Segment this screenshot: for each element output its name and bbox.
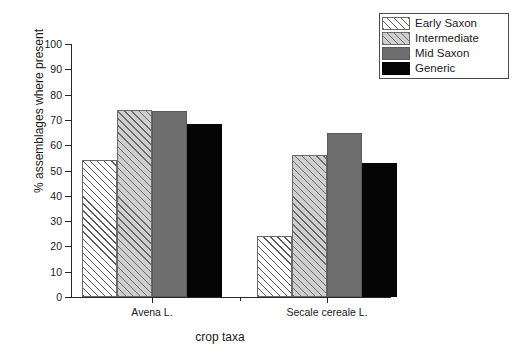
- x-axis-minor-tick: [240, 297, 241, 301]
- y-axis-tick: [65, 221, 71, 222]
- y-axis-tick-label: 20: [20, 241, 62, 251]
- legend: Early Saxon Intermediate Mid Saxon Gener…: [379, 13, 509, 79]
- bar-generic-secale-cereale-l: [362, 163, 397, 297]
- legend-swatch-icon-generic: [382, 62, 410, 75]
- y-axis-tick: [65, 246, 71, 247]
- bar-intermediate-avena-l: [117, 110, 152, 297]
- legend-swatch-icon-early-saxon: [382, 17, 410, 30]
- bar-mid-saxon-avena-l: [152, 111, 187, 297]
- y-axis-line: [71, 44, 72, 298]
- bar-mid-saxon-secale-cereale-l: [327, 133, 362, 297]
- bar-early-saxon-avena-l: [82, 160, 117, 297]
- x-axis-category-label: Secale cereale L.: [247, 306, 407, 318]
- x-axis-title: crop taxa: [0, 330, 440, 344]
- legend-label-intermediate: Intermediate: [415, 32, 479, 45]
- y-axis-tick: [65, 120, 71, 121]
- legend-label-early-saxon: Early Saxon: [415, 17, 477, 30]
- legend-swatch-icon-mid-saxon: [382, 47, 410, 60]
- x-axis-line: [71, 297, 391, 298]
- y-axis-tick-label: 0: [20, 292, 62, 302]
- bar-early-saxon-secale-cereale-l: [257, 236, 292, 297]
- bar-chart-figure: 0102030405060708090100 Avena L.Secale ce…: [0, 0, 515, 364]
- y-axis-tick: [65, 297, 71, 298]
- y-axis-tick: [65, 272, 71, 273]
- y-axis-tick: [65, 44, 71, 45]
- x-axis-category-label: Avena L.: [72, 306, 232, 318]
- x-axis-tick: [327, 297, 328, 303]
- y-axis-tick-label: 10: [20, 267, 62, 277]
- legend-label-mid-saxon: Mid Saxon: [415, 47, 469, 60]
- legend-item-mid-saxon[interactable]: Mid Saxon: [382, 46, 506, 61]
- bar-generic-avena-l: [187, 124, 222, 297]
- x-axis-tick: [152, 297, 153, 303]
- bar-intermediate-secale-cereale-l: [292, 155, 327, 297]
- legend-item-generic[interactable]: Generic: [382, 61, 506, 76]
- legend-item-intermediate[interactable]: Intermediate: [382, 31, 506, 46]
- plot-area: [72, 44, 390, 297]
- legend-swatch-icon-intermediate: [382, 32, 410, 45]
- y-axis-tick: [65, 171, 71, 172]
- y-axis-title: % assemblages where present: [32, 0, 46, 236]
- y-axis-tick: [65, 69, 71, 70]
- y-axis-tick: [65, 145, 71, 146]
- legend-label-generic: Generic: [415, 62, 455, 75]
- legend-item-early-saxon[interactable]: Early Saxon: [382, 16, 506, 31]
- y-axis-tick: [65, 196, 71, 197]
- y-axis-tick: [65, 95, 71, 96]
